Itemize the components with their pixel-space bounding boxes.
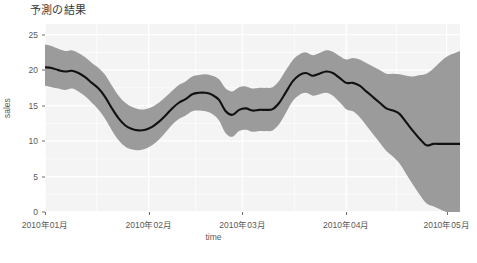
y-axis-tick-label: 10 — [29, 137, 38, 146]
x-axis-tick-label: 2010年03月 — [219, 220, 265, 230]
x-axis-tick-label: 2010年05月 — [423, 220, 469, 230]
chart-title: 予測の結果 — [30, 3, 86, 17]
x-axis-label: time — [0, 232, 477, 242]
y-axis-tick-label: 15 — [29, 101, 38, 110]
y-axis-label: sales — [2, 98, 12, 118]
x-axis-label-text: time — [205, 232, 221, 242]
y-axis-tick-label: 5 — [33, 172, 38, 181]
x-axis-tick-mark — [346, 212, 347, 215]
x-axis-tick-label: 2010年01月 — [22, 220, 68, 230]
x-axis-tick-mark — [447, 212, 448, 215]
x-axis-tick-label: 2010年04月 — [323, 220, 369, 230]
x-axis-tick-mark — [242, 212, 243, 215]
plot-svg — [45, 24, 460, 212]
y-axis-tick-label: 20 — [29, 66, 38, 75]
x-axis-tick-label: 2010年02月 — [126, 220, 172, 230]
x-axis-tick-mark — [45, 212, 46, 215]
x-axis-tick-mark — [149, 212, 150, 215]
forecast-chart: 予測の結果 0510152025 sales 2010年01月2010年02月2… — [0, 0, 477, 263]
y-axis: 0510152025 — [0, 24, 45, 212]
plot-panel — [45, 24, 460, 212]
y-axis-tick-label: 25 — [29, 30, 38, 39]
